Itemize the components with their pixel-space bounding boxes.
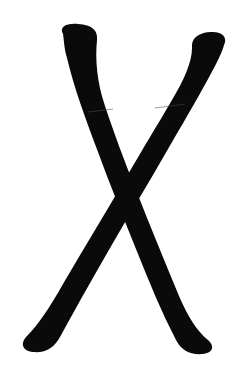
- glyph-canvas: Black brush-drawn letter X on white back…: [0, 0, 242, 367]
- handwritten-x-glyph: [0, 0, 242, 367]
